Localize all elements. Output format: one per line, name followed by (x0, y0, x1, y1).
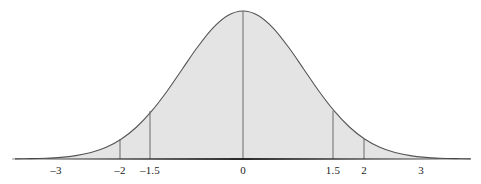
x-tick-label-neg3: –3 (50, 164, 61, 176)
x-tick-label-1p5: 1.5 (326, 164, 340, 176)
normal-distribution-figure: –3–2–1.501.523 (0, 0, 481, 184)
x-tick-label-0: 0 (240, 164, 246, 176)
x-tick-label-neg1p5: –1.5 (140, 164, 160, 176)
x-tick-label-neg2: –2 (114, 164, 125, 176)
x-tick-label-2: 2 (361, 164, 367, 176)
x-tick-label-3: 3 (418, 164, 424, 176)
normal-curve-plot (0, 0, 481, 184)
